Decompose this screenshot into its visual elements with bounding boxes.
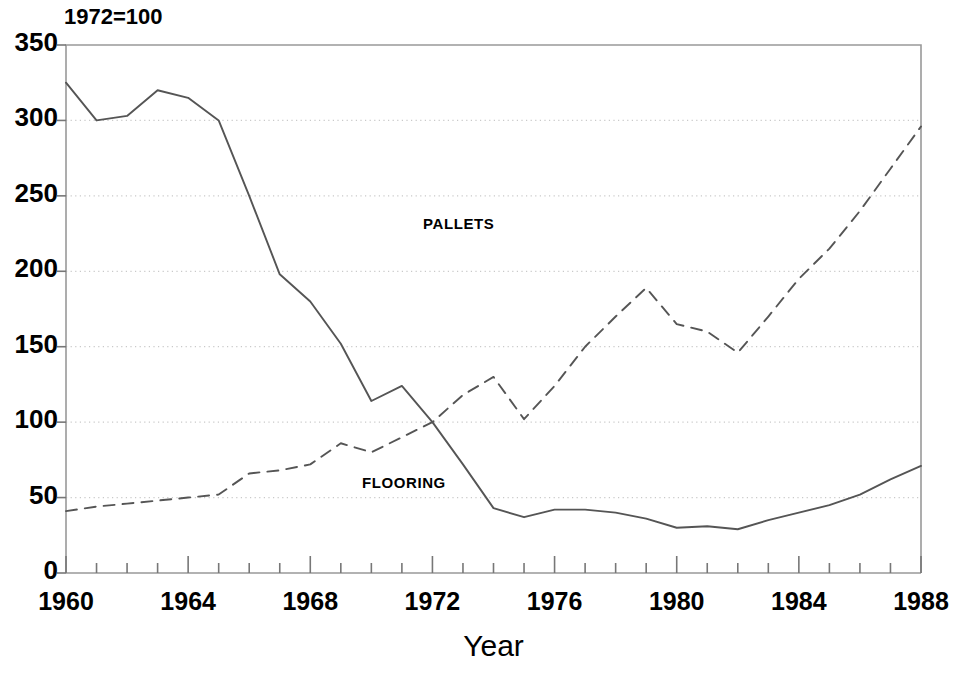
x-axis-ticks [66,556,921,573]
series-line-pallets [66,83,921,530]
series-line-flooring [66,126,921,511]
line-chart-plot [0,0,962,673]
y-tick-label: 150 [0,329,58,360]
x-tick-label: 1980 [622,587,732,616]
y-tick-label: 0 [0,555,58,586]
x-axis-title: Year [394,629,594,663]
y-tick-label: 300 [0,102,58,133]
x-tick-label: 1976 [500,587,610,616]
x-tick-label: 1972 [377,587,487,616]
x-tick-label: 1960 [11,587,121,616]
series-label-pallets: PALLETS [423,215,494,232]
y-tick-label: 50 [0,480,58,511]
y-tick-label: 200 [0,253,58,284]
y-tick-label: 100 [0,404,58,435]
series-label-flooring: FLOORING [362,474,446,491]
axes-frame [66,45,921,573]
data-series [66,83,921,530]
chart-container: 1972=100 050100150200250300350 196019641… [0,0,962,673]
index-base-note: 1972=100 [64,4,163,30]
x-tick-label: 1984 [744,587,854,616]
gridlines [66,120,921,497]
y-tick-label: 250 [0,178,58,209]
y-tick-label: 350 [0,27,58,58]
x-tick-label: 1964 [133,587,243,616]
y-axis-ticks [57,45,66,573]
x-tick-label: 1988 [866,587,962,616]
x-tick-label: 1968 [255,587,365,616]
